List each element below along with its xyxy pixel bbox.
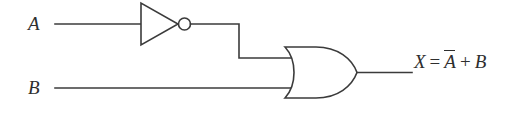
inverter-gate: [141, 3, 178, 45]
wire-inverter-to-or-gate: [191, 24, 292, 58]
inversion-bubble-icon: [179, 18, 191, 30]
equals-sign: =: [430, 52, 441, 71]
or-gate: [285, 47, 357, 98]
output-variable: X: [414, 52, 426, 71]
logic-circuit-diagram: A B X = A + B: [0, 0, 528, 121]
negated-operand-a: A: [444, 51, 456, 71]
output-expression-label: X = A + B: [414, 51, 486, 71]
input-label-a: A: [28, 14, 40, 33]
plus-operator: +: [460, 52, 471, 71]
input-label-b: B: [28, 78, 40, 97]
operand-b: B: [475, 52, 487, 71]
